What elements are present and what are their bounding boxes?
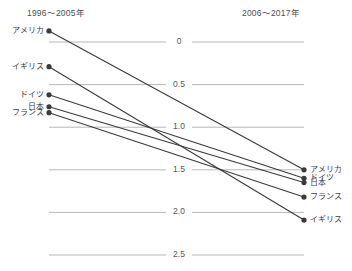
series-line — [49, 31, 304, 170]
y-tick-label: 2.0 — [166, 206, 192, 216]
left-endpoint-label: フランス — [12, 108, 44, 117]
slope-chart: 1996〜2005年 2006〜2017年 2.52.01.51.00.50 ア… — [0, 0, 352, 271]
left-endpoint-label: イギリス — [12, 62, 44, 71]
data-point — [46, 110, 51, 115]
data-point — [46, 28, 51, 33]
y-tick-label: 1.5 — [166, 164, 192, 174]
data-point — [46, 92, 51, 97]
y-tick-label: 0.5 — [166, 79, 192, 89]
right-endpoint-label: 日本 — [310, 178, 326, 187]
series-line — [49, 67, 304, 220]
y-tick-label: 1.0 — [166, 121, 192, 131]
data-point — [301, 194, 306, 199]
data-point — [301, 217, 306, 222]
data-point — [46, 64, 51, 69]
data-point — [301, 180, 306, 185]
left-endpoint-label: アメリカ — [12, 26, 44, 35]
data-point — [301, 167, 306, 172]
right-endpoint-label: イギリス — [310, 215, 342, 224]
y-tick-label: 2.5 — [166, 249, 192, 259]
y-tick-label: 0 — [166, 36, 192, 46]
left-endpoint-label: ドイツ — [20, 90, 44, 99]
right-endpoint-label: フランス — [310, 192, 342, 201]
data-point — [46, 104, 51, 109]
